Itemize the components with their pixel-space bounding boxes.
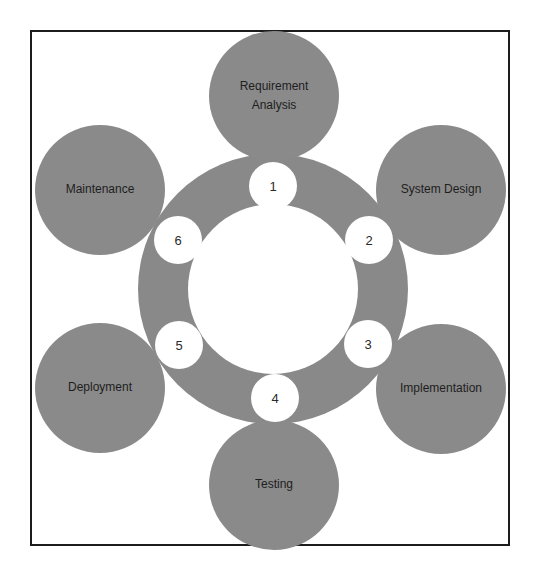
phase-testing: Testing xyxy=(209,420,339,550)
step-badge-1: 1 xyxy=(249,162,297,210)
step-badge-3: 3 xyxy=(344,320,392,368)
step-badge-4: 4 xyxy=(251,374,299,422)
step-badge-6: 6 xyxy=(154,216,202,264)
phase-system-design: System Design xyxy=(376,125,506,255)
phase-label: Deployment xyxy=(62,378,138,397)
phase-label: Implementation xyxy=(394,379,488,398)
phase-label: System Design xyxy=(395,180,488,199)
phase-maintenance: Maintenance xyxy=(35,125,165,255)
phase-requirement-analysis: Requirement Analysis xyxy=(209,31,339,161)
phase-label: Testing xyxy=(249,475,299,494)
phase-deployment: Deployment xyxy=(35,323,165,453)
phase-label: Maintenance xyxy=(60,180,141,199)
cycle-center xyxy=(188,204,358,374)
step-badge-2: 2 xyxy=(345,216,393,264)
phase-implementation: Implementation xyxy=(376,324,506,454)
phase-label: Requirement Analysis xyxy=(223,77,325,115)
sdlc-cycle-diagram: Requirement Analysis System Design Imple… xyxy=(0,0,538,578)
step-badge-5: 5 xyxy=(155,321,203,369)
